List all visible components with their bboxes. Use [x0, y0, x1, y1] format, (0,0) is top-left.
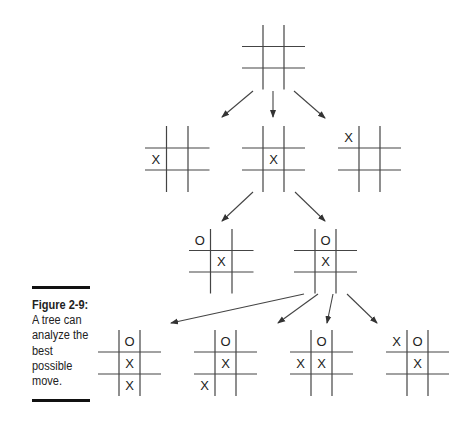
tree-edge-arrow [347, 294, 377, 323]
x-mark: X [321, 254, 330, 269]
tic-tac-toe-board-l3-c: OXX [290, 330, 353, 396]
caption-line: move. [32, 374, 83, 389]
x-mark: X [413, 356, 422, 371]
caption-line: A tree can [32, 313, 83, 328]
o-mark: O [124, 334, 134, 349]
tic-tac-toe-board-root [242, 25, 305, 90]
o-mark: O [412, 334, 422, 349]
caption-line: possible [32, 359, 83, 374]
tic-tac-toe-board-l2-a: OX [189, 229, 254, 294]
caption-bottom-rule [32, 399, 90, 402]
x-mark: X [221, 356, 230, 371]
tree-edge-arrow [222, 91, 253, 117]
figure-label: Figure 2-9: [32, 298, 83, 313]
tree-edge-arrow [295, 192, 325, 221]
caption-top-rule [32, 286, 90, 289]
tic-tac-toe-board-l3-b: OXX [194, 330, 257, 396]
x-mark: X [344, 130, 353, 145]
o-mark: O [320, 233, 330, 248]
x-mark: X [392, 334, 401, 349]
o-mark: O [195, 233, 205, 248]
x-mark: X [200, 378, 209, 393]
figure-caption: Figure 2-9: A tree can analyze the best … [32, 286, 90, 402]
x-mark: X [217, 254, 226, 269]
tree-edge-arrow [222, 192, 253, 221]
tree-edge-arrow [294, 91, 325, 118]
tic-tac-toe-board-l1-c: X [338, 126, 401, 192]
caption-line: best [32, 344, 83, 359]
tic-tac-toe-board-l1-a: X [145, 126, 210, 192]
tree-edge-arrow [327, 294, 333, 323]
x-mark: X [317, 356, 326, 371]
tic-tac-toe-board-l3-a: OXX [98, 330, 161, 396]
x-mark: X [296, 356, 305, 371]
x-mark: X [269, 152, 278, 167]
o-mark: O [316, 334, 326, 349]
tic-tac-toe-board-l2-b: OX [294, 229, 357, 294]
tic-tac-toe-board-l1-b: X [242, 126, 305, 192]
o-mark: O [220, 334, 230, 349]
x-mark: X [125, 378, 134, 393]
tic-tac-toe-board-l3-d: XOX [386, 330, 449, 396]
x-mark: X [125, 356, 134, 371]
x-mark: X [151, 152, 160, 167]
caption-line: analyze the [32, 328, 83, 343]
